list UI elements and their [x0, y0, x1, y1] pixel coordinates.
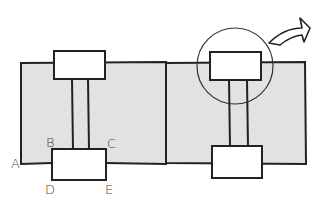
- label-e: E: [105, 182, 113, 197]
- right-top-box: [210, 52, 261, 80]
- arrow-icon: [269, 18, 310, 45]
- label-d: D: [45, 182, 55, 197]
- label-c: C: [107, 136, 116, 151]
- right-post-2: [247, 80, 248, 147]
- diagram-canvas: A B C D E: [0, 0, 321, 206]
- label-a: A: [11, 156, 20, 171]
- label-b: B: [46, 135, 55, 150]
- left-top-box: [54, 51, 105, 79]
- left-post-2: [88, 79, 89, 150]
- right-post-1: [229, 80, 230, 147]
- right-bottom-box: [212, 146, 262, 178]
- left-post-1: [72, 79, 73, 150]
- left-bottom-box: [52, 149, 106, 180]
